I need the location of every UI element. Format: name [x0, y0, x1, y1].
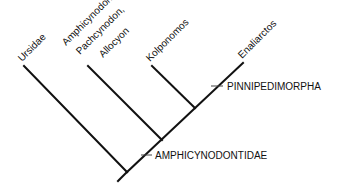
cladogram: Ursidae Amphicynodon, Pachcynodon, Alloc… [0, 0, 347, 187]
taxon-label-kolponomos: Kolponomos [144, 16, 191, 63]
amphicynodon-branch [88, 66, 162, 140]
root-branch [118, 172, 127, 181]
clade-label-pinnipedimorpha: PINNIPEDIMORPHA [227, 81, 321, 92]
ursidae-branch [24, 66, 127, 172]
taxon-label-ursidae: Ursidae [16, 31, 48, 63]
taxon-label-enaliarctos: Enaliarctos [236, 18, 279, 61]
kolponomos-branch [152, 66, 195, 108]
clade-label-amphicynodontidae: AMPHICYNODONTIDAE [155, 150, 268, 161]
